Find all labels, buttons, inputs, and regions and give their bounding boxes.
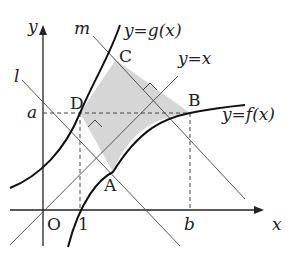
curve-g-label: y=g(x) <box>124 22 182 39</box>
line-l-label: l <box>14 68 19 85</box>
x-axis-label: x <box>272 216 282 233</box>
origin-label: O <box>47 216 61 233</box>
tick-a: a <box>27 104 37 121</box>
y-axis-label: y <box>28 18 38 35</box>
y-axis-arrow <box>39 25 47 35</box>
diagram-canvas <box>0 0 306 273</box>
point-a-label: A <box>104 177 116 194</box>
line-identity-label: y=x <box>178 50 211 67</box>
point-c-label: C <box>119 48 132 65</box>
tick-b: b <box>184 216 195 233</box>
point-d-label: D <box>70 95 84 112</box>
diagram: y x O 1 b a C D B A l m y=x y=g(x) y=f(x… <box>0 0 306 273</box>
point-b-label: B <box>188 92 201 109</box>
tick-1: 1 <box>78 216 89 233</box>
line-m-label: m <box>74 20 90 37</box>
curve-f-label: y=f(x) <box>222 106 275 123</box>
x-axis-arrow <box>254 206 264 214</box>
